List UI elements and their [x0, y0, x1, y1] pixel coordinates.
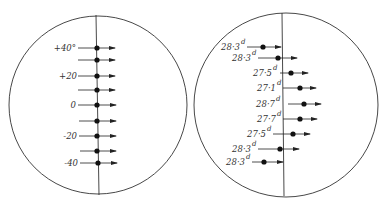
right-row	[273, 131, 310, 136]
left-row	[78, 45, 115, 50]
right-label-row-9: 28·3	[225, 157, 245, 167]
right-unit-row-1: d	[241, 38, 246, 46]
left-label-minus40: -40	[64, 158, 78, 168]
right-unit-row-5: d	[276, 95, 281, 103]
left-row	[78, 57, 115, 62]
right-labels: 28·3 d 28·3 d 27·5 d 27·1 d 28·7 d 27·7 …	[220, 38, 282, 167]
star-dot-icon	[94, 148, 99, 153]
right-row	[288, 101, 321, 106]
left-row	[78, 73, 115, 78]
left-label-zero: 0	[71, 100, 77, 110]
star-dot-icon	[260, 44, 265, 49]
right-label-row-5: 28·7	[255, 99, 276, 109]
star-dot-icon	[94, 118, 99, 123]
star-dot-icon	[288, 70, 293, 75]
left-row	[80, 160, 117, 165]
right-unit-row-2: d	[252, 49, 257, 57]
right-row	[252, 159, 283, 164]
star-dot-icon	[261, 159, 266, 164]
left-row	[79, 118, 116, 123]
left-label-plus20: +20	[59, 71, 78, 81]
star-dot-icon	[94, 87, 99, 92]
right-label-row-2: 28·3	[231, 53, 251, 63]
right-row	[280, 70, 308, 75]
star-dot-icon	[94, 73, 99, 78]
right-panel: 28·3 d 28·3 d 27·5 d 27·1 d 28·7 d 27·7 …	[194, 13, 378, 197]
right-label-row-6: 27·7	[256, 114, 277, 124]
left-row	[78, 87, 115, 92]
star-dot-icon	[277, 146, 282, 151]
left-panel: +40° +20 0 -20 -40	[9, 15, 187, 195]
star-dot-icon	[297, 116, 302, 121]
star-dot-icon	[301, 101, 306, 106]
star-dot-icon	[94, 102, 99, 107]
right-label-row-4: 27·1	[256, 83, 276, 93]
right-vertical-axis	[282, 13, 284, 196]
right-row	[258, 55, 297, 60]
right-label-row-3: 27·5	[252, 68, 272, 78]
left-rows	[78, 45, 117, 165]
right-label-row-1: 28·3	[220, 42, 240, 52]
left-label-plus40: +40°	[54, 43, 76, 53]
right-unit-row-4: d	[277, 79, 282, 87]
star-dot-icon	[94, 133, 99, 138]
right-row	[283, 116, 317, 121]
right-field-circle	[194, 13, 378, 197]
right-row	[283, 85, 316, 90]
star-dot-icon	[95, 160, 100, 165]
star-dot-icon	[94, 45, 99, 50]
right-unit-row-8: d	[252, 140, 257, 148]
right-row	[258, 146, 299, 151]
left-row	[80, 148, 116, 153]
star-dot-icon	[297, 85, 302, 90]
left-label-minus20: -20	[63, 131, 77, 141]
left-row	[79, 133, 116, 138]
right-unit-row-6: d	[277, 110, 282, 118]
star-dot-icon	[94, 57, 99, 62]
right-unit-row-3: d	[273, 64, 278, 72]
figure-canvas: +40° +20 0 -20 -40 28·3 d 28·3 d 27·5 d …	[0, 0, 379, 202]
right-unit-row-9: d	[246, 153, 251, 161]
right-label-row-7: 27·5	[246, 129, 266, 139]
left-row	[78, 102, 116, 107]
star-dot-icon	[275, 55, 280, 60]
right-unit-row-7: d	[267, 125, 272, 133]
left-labels: +40° +20 0 -20 -40	[54, 43, 79, 168]
star-dot-icon	[290, 131, 295, 136]
